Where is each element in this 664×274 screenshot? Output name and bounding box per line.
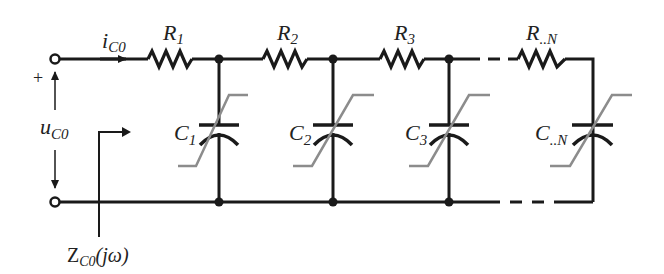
resistor-r1 [148, 51, 192, 67]
capacitor-c3-label: C3 [405, 120, 427, 148]
nonlinear-characteristic-icon [550, 95, 632, 166]
resistor-r2-label: R2 [276, 20, 298, 47]
resistor-r1-label: R1 [162, 20, 184, 47]
top-wire [60, 59, 593, 202]
resistor-r2 [263, 51, 307, 67]
impedance-arrow [99, 132, 126, 237]
capacitor-c2 [293, 59, 374, 202]
capacitor-cn-label: C..N [535, 120, 568, 148]
resistor-rn [518, 51, 565, 67]
resistor-r3-label: R3 [393, 20, 415, 47]
input-terminal-top [51, 55, 60, 64]
resistor-r3 [380, 51, 424, 67]
resistor-rn-label: R..N [525, 20, 558, 47]
plus-sign: + [33, 68, 43, 88]
voltage-label: uC0 [40, 114, 69, 142]
capacitor-c1-label: C1 [174, 120, 196, 148]
capacitor-c2-label: C2 [289, 120, 312, 148]
circuit-diagram: + iC0 uC0 ZC0(jω) R1 R2 R3 R..N C1 C2 C3… [0, 0, 664, 274]
input-terminal-bottom [51, 198, 60, 207]
capacitor-c3 [409, 59, 490, 202]
capacitor-cn [550, 95, 632, 166]
impedance-label: ZC0(jω) [67, 244, 129, 269]
current-label: iC0 [102, 28, 126, 55]
